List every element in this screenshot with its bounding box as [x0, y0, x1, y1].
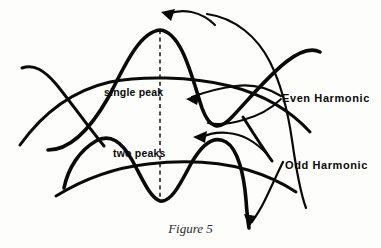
label-even-harmonic: Even Harmonic: [282, 93, 370, 104]
figure-container: single peak two peaks Even Harmonic Odd …: [0, 0, 381, 248]
label-odd-harmonic: Odd Harmonic: [285, 160, 368, 171]
odd-harmonic-leader-descending: [252, 162, 283, 222]
single-peak-callout-arrowhead: [161, 9, 175, 21]
upper-left-crossing-curve: [22, 67, 104, 146]
even-harmonic-arrowhead: [186, 93, 200, 105]
label-single-peak: single peak: [104, 87, 163, 98]
odd-harmonic-arrowhead-upper: [193, 131, 207, 143]
label-two-peaks: two peaks: [113, 148, 166, 159]
figure-caption: Figure 5: [0, 221, 381, 237]
harmonics-diagram: [0, 0, 381, 248]
upper-sweep-curve: [207, 14, 306, 208]
